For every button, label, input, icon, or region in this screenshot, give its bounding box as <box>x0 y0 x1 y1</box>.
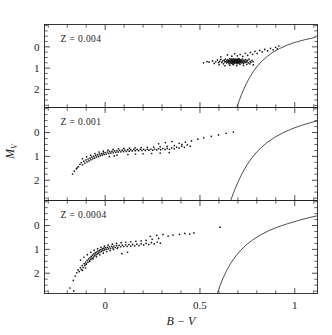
data-point <box>191 140 193 142</box>
data-point <box>236 65 238 67</box>
data-point <box>158 238 160 240</box>
data-point <box>148 244 150 246</box>
data-point <box>107 246 109 248</box>
data-point <box>148 149 150 151</box>
data-point <box>160 149 162 151</box>
data-point <box>136 149 138 151</box>
data-point <box>208 61 210 63</box>
data-point <box>166 146 168 148</box>
y-axis-title: MV <box>3 143 19 160</box>
data-point <box>138 150 140 152</box>
data-point <box>158 148 160 150</box>
data-point <box>249 63 251 65</box>
data-point <box>172 234 174 236</box>
data-point <box>94 157 96 159</box>
data-point <box>82 267 84 269</box>
data-point <box>246 61 248 63</box>
data-point <box>225 132 227 134</box>
data-point <box>108 248 110 250</box>
data-point <box>81 265 83 267</box>
data-point <box>121 253 123 255</box>
data-point <box>116 245 118 247</box>
data-point <box>89 157 91 159</box>
data-point <box>228 63 230 65</box>
data-point <box>217 59 219 61</box>
data-point <box>134 245 136 247</box>
data-point <box>232 131 234 133</box>
data-point <box>109 151 111 153</box>
data-point <box>82 158 84 160</box>
data-point <box>85 267 87 269</box>
data-point <box>145 243 147 245</box>
data-point <box>224 65 226 67</box>
data-point <box>85 159 87 161</box>
data-point <box>119 150 121 152</box>
data-point <box>96 256 98 258</box>
x-tick-label: 0 <box>102 299 108 311</box>
data-point <box>79 163 81 165</box>
data-point <box>239 54 241 56</box>
data-point <box>96 156 98 158</box>
data-point <box>167 235 169 237</box>
data-point <box>146 146 148 148</box>
panel-middle: 012Z = 0.001 <box>34 108 318 201</box>
data-point <box>130 245 132 247</box>
data-point <box>218 64 220 66</box>
data-point <box>124 149 126 151</box>
y-tick-label: 1 <box>34 150 40 162</box>
data-point <box>98 156 100 158</box>
data-point <box>93 249 95 251</box>
data-point <box>105 247 107 249</box>
data-point <box>120 151 122 153</box>
data-point <box>108 246 110 248</box>
data-point <box>123 151 125 153</box>
data-point <box>221 62 223 64</box>
data-point <box>112 149 114 151</box>
data-point <box>90 255 92 257</box>
data-point <box>130 241 132 243</box>
data-point <box>193 232 195 234</box>
data-point <box>140 240 142 242</box>
data-point <box>130 149 132 151</box>
data-point <box>245 59 247 61</box>
data-point <box>244 62 246 64</box>
data-point <box>83 160 85 162</box>
data-point <box>92 158 94 160</box>
data-point <box>176 146 178 148</box>
data-point <box>171 147 173 149</box>
data-point <box>129 147 131 149</box>
data-point <box>159 152 161 154</box>
data-point <box>219 60 221 62</box>
data-point <box>123 147 125 149</box>
data-point <box>102 152 104 154</box>
panel-metallicity-label: Z = 0.004 <box>61 34 102 44</box>
data-point <box>278 45 280 47</box>
data-point <box>220 59 222 61</box>
data-point <box>107 244 109 246</box>
data-point <box>185 141 187 143</box>
data-point <box>128 244 130 246</box>
data-point <box>159 146 161 148</box>
data-point <box>142 153 144 155</box>
data-point <box>112 152 114 154</box>
data-point <box>123 246 125 248</box>
data-point <box>107 151 109 153</box>
data-point <box>99 153 101 155</box>
data-point <box>156 241 158 243</box>
data-point <box>136 243 138 245</box>
data-point <box>84 162 86 164</box>
y-tick-label: 2 <box>34 174 40 186</box>
data-point <box>121 149 123 151</box>
data-point <box>74 275 76 277</box>
data-point <box>116 243 118 245</box>
data-point <box>113 245 115 247</box>
data-point <box>116 248 118 250</box>
data-point <box>134 147 136 149</box>
data-point <box>252 64 254 66</box>
data-point <box>250 61 252 63</box>
data-point <box>139 148 141 150</box>
data-point <box>73 290 75 292</box>
data-point <box>229 64 231 66</box>
data-point <box>156 149 158 151</box>
data-point <box>102 252 104 254</box>
